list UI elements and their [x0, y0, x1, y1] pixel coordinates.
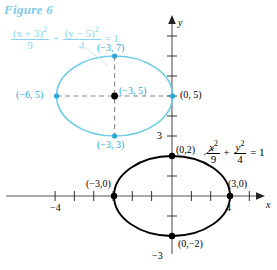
- black-ellipse-equation: x2 9 + y2 4 = 1: [206, 140, 265, 166]
- point-label-black-left: (−3,0): [86, 179, 111, 189]
- blue-covertex-bottom-point: [112, 133, 117, 138]
- point-label-black-bottom: (0,−2): [178, 239, 203, 249]
- point-label-blue-left: (−6, 5): [16, 90, 43, 100]
- black-eq-num2-exponent: 2: [240, 139, 244, 148]
- black-eq-equals: = 1: [250, 147, 264, 158]
- blue-eq-den2: 4: [63, 40, 101, 52]
- blue-center-point: [111, 93, 118, 100]
- x-tick-label-neg4: −4: [50, 203, 61, 213]
- black-eq-den2: 4: [234, 154, 247, 166]
- black-covertex-top-point: [169, 153, 175, 159]
- y-tick-label-3: 3: [157, 131, 162, 141]
- x-axis-arrow: [256, 192, 265, 200]
- black-eq-den1: 9: [207, 154, 220, 166]
- blue-vertex-left-point: [54, 93, 59, 98]
- x-axis-label: x: [266, 200, 270, 210]
- point-label-black-top: (0,2): [176, 145, 195, 155]
- blue-vertex-right-point: [170, 93, 175, 98]
- y-axis-label: y: [178, 18, 182, 28]
- black-covertex-bottom-point: [169, 233, 175, 239]
- point-label-black-right: (3,0): [228, 179, 247, 189]
- figure-title: Figure 6: [4, 2, 53, 18]
- point-label-blue-top: (−3, 7): [97, 43, 124, 53]
- blue-covertex-top-point: [112, 53, 117, 58]
- black-vertex-right-point: [227, 193, 233, 199]
- point-label-blue-right: (0, 5): [180, 90, 202, 100]
- y-tick-label-neg3: −3: [152, 251, 163, 261]
- blue-eq-num2-exponent: 2: [95, 25, 99, 34]
- point-label-blue-bottom: (−3, 3): [97, 140, 124, 150]
- blue-eq-num1: (x + 3): [13, 27, 43, 39]
- black-eq-plus: +: [224, 147, 230, 158]
- black-eq-num1-exponent: 2: [214, 139, 218, 148]
- blue-eq-plus: +: [53, 33, 59, 44]
- black-vertex-left-point: [111, 193, 117, 199]
- blue-eq-num2: (y − 5): [65, 27, 95, 39]
- point-label-blue-center: (−3, 5): [119, 86, 146, 96]
- x-tick-label-4: 4: [226, 203, 231, 213]
- figure-canvas: Figure 6 (x + 3)2 9 + (y − 5)2 4 = 1 x2 …: [0, 0, 277, 270]
- blue-eq-den1: 9: [11, 40, 49, 52]
- y-axis-arrow: [168, 15, 176, 24]
- blue-eq-num1-exponent: 2: [43, 25, 47, 34]
